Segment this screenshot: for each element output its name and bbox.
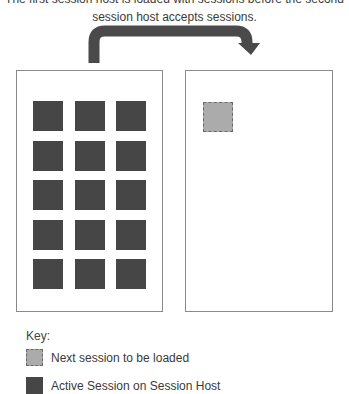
active-session (75, 220, 105, 250)
active-session (75, 259, 105, 289)
active-session (33, 180, 63, 210)
key-label: Active Session on Session Host (51, 379, 220, 393)
session-host-1 (16, 70, 163, 312)
active-session (116, 141, 146, 171)
active-session (116, 259, 146, 289)
solid-square-icon (26, 377, 43, 394)
load-flow-arrow-icon (0, 0, 349, 80)
key-item-next-session: Next session to be loaded (26, 349, 189, 366)
active-session (33, 101, 63, 131)
key-title: Key: (26, 329, 50, 343)
active-session (33, 220, 63, 250)
dashed-square-icon (26, 349, 43, 366)
active-session (75, 101, 105, 131)
key-label: Next session to be loaded (51, 351, 189, 365)
session-host-2 (185, 70, 333, 312)
active-session (33, 141, 63, 171)
active-session (33, 259, 63, 289)
next-session (203, 102, 233, 132)
active-session (75, 180, 105, 210)
active-session (116, 220, 146, 250)
active-session (75, 141, 105, 171)
active-session (116, 101, 146, 131)
active-session (116, 180, 146, 210)
key-item-active-session: Active Session on Session Host (26, 377, 220, 394)
